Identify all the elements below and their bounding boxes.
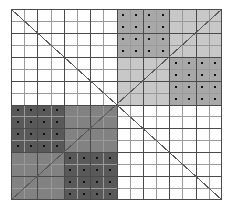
grid-cell (103, 21, 116, 33)
grid-cell (130, 164, 143, 176)
grid-cell (64, 164, 77, 176)
grid-cell (11, 105, 24, 117)
grid-cell (64, 33, 77, 45)
grid-cell (103, 152, 116, 164)
grid-cell (51, 69, 64, 81)
grid-cell (103, 93, 116, 105)
cell-dot-icon (30, 109, 32, 111)
grid-cell (51, 93, 64, 105)
grid-cell (196, 21, 209, 33)
grid-cell (209, 21, 222, 33)
grid-cell (196, 188, 209, 200)
grid-cell (169, 128, 182, 140)
grid-cell (37, 45, 50, 57)
grid-cell (130, 116, 143, 128)
grid-cell (117, 105, 130, 117)
cell-dot-icon (109, 193, 111, 195)
grid-cell (77, 81, 90, 93)
cell-dot-icon (122, 14, 124, 16)
grid-cell (11, 188, 24, 200)
grid-cell (11, 21, 24, 33)
cell-dot-icon (69, 193, 71, 195)
grid-cell (77, 176, 90, 188)
grid-cell (156, 140, 169, 152)
grid-cell (90, 105, 103, 117)
grid-cell (196, 105, 209, 117)
grid-cell (64, 188, 77, 200)
cell-dot-icon (162, 26, 164, 28)
cell-dot-icon (122, 38, 124, 40)
grid-cell (130, 57, 143, 69)
grid-cell (90, 33, 103, 45)
grid-cell (51, 140, 64, 152)
grid-cell (143, 164, 156, 176)
cell-dot-icon (214, 74, 216, 76)
grid-cell (196, 57, 209, 69)
grid-cell (143, 116, 156, 128)
grid-cell (90, 57, 103, 69)
grid-cell (209, 69, 222, 81)
cell-dot-icon (96, 181, 98, 183)
grid-cell (143, 140, 156, 152)
grid-cell (64, 140, 77, 152)
grid-cell (11, 128, 24, 140)
grid-cell (169, 57, 182, 69)
grid-cell (169, 105, 182, 117)
grid-cell (77, 45, 90, 57)
grid-cell (103, 116, 116, 128)
grid-cell (103, 164, 116, 176)
cell-dot-icon (148, 50, 150, 52)
grid-cell (117, 176, 130, 188)
grid-cell (90, 81, 103, 93)
grid-cell (117, 9, 130, 21)
cell-dot-icon (162, 38, 164, 40)
cell-dot-icon (43, 145, 45, 147)
grid-cell (130, 152, 143, 164)
grid-cell (169, 140, 182, 152)
grid-cell (37, 152, 50, 164)
grid-cell (143, 21, 156, 33)
cell-dot-icon (148, 38, 150, 40)
grid-cell (64, 105, 77, 117)
grid-cell (64, 81, 77, 93)
grid-cell (143, 45, 156, 57)
grid-cell (90, 176, 103, 188)
cell-dot-icon (214, 98, 216, 100)
cell-dot-icon (135, 14, 137, 16)
grid-cell (103, 45, 116, 57)
grid-cell (156, 81, 169, 93)
grid-cell (182, 9, 195, 21)
grid-cell (143, 57, 156, 69)
grid-cell (51, 57, 64, 69)
cell-dot-icon (96, 169, 98, 171)
grid-cell (182, 164, 195, 176)
grid-cells-layer (11, 9, 222, 200)
grid-cell (24, 105, 37, 117)
grid-cell (37, 116, 50, 128)
grid-cell (209, 105, 222, 117)
grid-cell (156, 116, 169, 128)
grid-cell (130, 81, 143, 93)
grid-cell (11, 33, 24, 45)
grid-cell (209, 45, 222, 57)
grid-cell (11, 9, 24, 21)
grid-cell (209, 33, 222, 45)
grid-cell (24, 45, 37, 57)
grid-cell (169, 21, 182, 33)
grid-cell (156, 69, 169, 81)
grid-cell (37, 164, 50, 176)
grid-cell (24, 21, 37, 33)
grid-cell (196, 69, 209, 81)
grid-cell (64, 45, 77, 57)
grid-cell (117, 152, 130, 164)
grid-cell (130, 9, 143, 21)
grid-cell (51, 105, 64, 117)
grid-cell (24, 81, 37, 93)
grid-cell (117, 93, 130, 105)
cell-dot-icon (109, 157, 111, 159)
grid-cell (156, 93, 169, 105)
grid-cell (90, 93, 103, 105)
cell-dot-icon (201, 98, 203, 100)
grid-cell (64, 93, 77, 105)
grid-cell (143, 93, 156, 105)
